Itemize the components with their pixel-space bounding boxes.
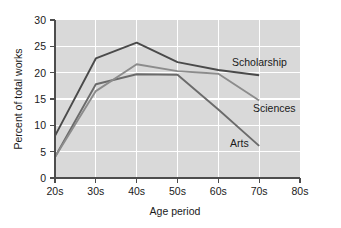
y-tick-0: 0 [40,172,46,184]
series-label-sciences: Sciences [253,102,296,114]
y-tick-10: 10 [34,119,46,131]
series-label-scholarship: Scholarship [232,56,287,68]
y-tick-25: 25 [34,40,46,52]
x-tick-30s: 30s [87,185,104,197]
x-tick-40s: 40s [128,185,145,197]
x-tick-60s: 60s [210,185,227,197]
chart-canvas: 30 25 20 15 10 5 0 20s 30s 40s 50s 60s 7… [0,0,341,228]
x-tick-50s: 50s [169,185,186,197]
line-chart: 30 25 20 15 10 5 0 20s 30s 40s 50s 60s 7… [0,0,341,228]
y-axis-title: Percent of total works [12,49,24,150]
series-label-arts: Arts [230,137,249,149]
x-tick-80s: 80s [292,185,309,197]
y-tick-20: 20 [34,67,46,79]
y-tick-15: 15 [34,93,46,105]
x-tick-70s: 70s [251,185,268,197]
y-tick-30: 30 [34,14,46,26]
x-tick-20s: 20s [47,185,64,197]
x-axis-title: Age period [150,205,201,217]
y-tick-5: 5 [40,146,46,158]
